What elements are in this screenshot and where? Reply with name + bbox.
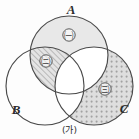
figure-caption: (가) (62, 125, 77, 135)
region-marker-1: ㈠ (63, 29, 75, 41)
venn-svg-canvas: A B C ㈠ ㈡ ㈢ (가) (0, 0, 139, 139)
region-marker-3: ㈢ (99, 83, 111, 95)
venn-diagram-figure: A B C ㈠ ㈡ ㈢ (가) (0, 0, 139, 139)
set-label-a: A (66, 2, 76, 17)
region-marker-3-label: ㈢ (100, 84, 110, 95)
region-marker-1-label: ㈠ (64, 30, 74, 41)
region-marker-2: ㈡ (40, 55, 52, 67)
region-marker-2-label: ㈡ (41, 56, 51, 67)
set-label-c: C (120, 101, 129, 116)
set-label-b: B (11, 102, 21, 117)
